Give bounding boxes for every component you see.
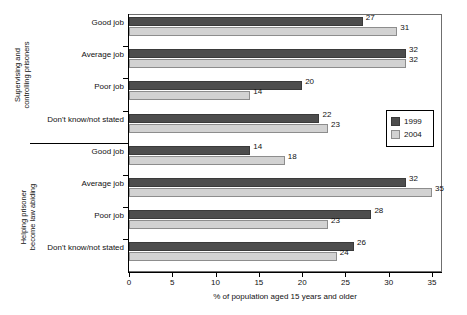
x-axis-tick-label: 0 [127, 278, 131, 287]
legend-swatch-1999-icon [391, 117, 400, 126]
category-label-wrap: Average job [4, 176, 124, 208]
category-label: Poor job [6, 82, 124, 91]
y-axis-tick [123, 207, 129, 208]
category-label: Poor job [6, 211, 124, 220]
category-label: Don't know/not stated [6, 243, 124, 252]
bar-value-label: 32 [409, 45, 418, 54]
legend-label-2004: 2004 [404, 130, 422, 139]
bar-value-label: 23 [331, 216, 340, 225]
legend-item-1999: 1999 [391, 115, 433, 128]
bar-1999 [129, 81, 302, 90]
bar-value-label: 24 [340, 248, 349, 257]
x-axis-line [128, 272, 442, 273]
bar-pair: 2823 [129, 208, 442, 240]
legend: 1999 2004 [386, 110, 434, 147]
y-axis-tick [123, 239, 129, 240]
category-label-wrap: Poor job [4, 79, 124, 111]
bar-row: Average job3235 [0, 176, 442, 208]
category-label: Average job [6, 179, 124, 188]
category-label-wrap: Poor job [4, 208, 124, 240]
bar-1999 [129, 49, 406, 58]
bar-2004 [129, 156, 285, 165]
bar-value-label: 35 [435, 184, 444, 193]
bar-value-label: 31 [400, 23, 409, 32]
bar-value-label: 26 [357, 238, 366, 247]
bar-value-label: 27 [366, 13, 375, 22]
y-axis-tick [123, 46, 129, 47]
bar-pair: 1418 [129, 144, 442, 176]
legend-swatch-2004-icon [391, 130, 400, 139]
x-axis-tick [172, 272, 173, 277]
category-label: Good job [6, 18, 124, 27]
category-label-wrap: Average job [4, 47, 124, 79]
x-axis-title: % of population aged 15 years and older [128, 292, 442, 301]
x-axis-tick [216, 272, 217, 277]
x-axis-tick-label: 15 [254, 278, 263, 287]
category-label-wrap: Don't know/not stated [4, 240, 124, 272]
bar-row: Don't know/not stated2624 [0, 240, 442, 272]
bar-pair: 3235 [129, 176, 442, 208]
bar-value-label: 28 [374, 206, 383, 215]
bar-value-label: 23 [331, 120, 340, 129]
x-axis-tick [389, 272, 390, 277]
bar-pair: 2624 [129, 240, 442, 272]
y-axis-tick [123, 78, 129, 79]
x-axis-tick-label: 5 [170, 278, 174, 287]
y-axis-tick [123, 111, 129, 112]
x-axis-tick [129, 272, 130, 277]
category-label-wrap: Good job [4, 15, 124, 47]
bar-value-label: 32 [409, 174, 418, 183]
bar-2004 [129, 252, 337, 261]
category-label: Good job [6, 147, 124, 156]
x-axis-tick-label: 30 [384, 278, 393, 287]
bar-row: Good job1418 [0, 144, 442, 176]
x-axis-tick-label: 20 [298, 278, 307, 287]
x-axis-tick-label: 25 [341, 278, 350, 287]
x-axis-tick [345, 272, 346, 277]
bar-2004 [129, 124, 328, 133]
x-axis-tick-label: 10 [211, 278, 220, 287]
bar-2004 [129, 59, 406, 68]
bar-1999 [129, 17, 363, 26]
bar-value-label: 14 [253, 142, 262, 151]
bar-value-label: 18 [288, 152, 297, 161]
bar-row: Poor job2014 [0, 79, 442, 111]
bar-pair: 3232 [129, 47, 442, 79]
bar-pair: 2731 [129, 15, 442, 47]
y-axis-tick [123, 175, 129, 176]
x-axis-tick [302, 272, 303, 277]
bar-2004 [129, 188, 432, 197]
bar-value-label: 20 [305, 77, 314, 86]
bar-2004 [129, 91, 250, 100]
legend-item-2004: 2004 [391, 128, 433, 141]
category-label-wrap: Don't know/not stated [4, 112, 124, 144]
bar-value-label: 32 [409, 55, 418, 64]
bar-1999 [129, 114, 319, 123]
category-label: Don't know/not stated [6, 115, 124, 124]
bar-row: Don't know/not stated2223 [0, 112, 442, 144]
x-axis-tick [259, 272, 260, 277]
bar-value-label: 14 [253, 87, 262, 96]
bar-1999 [129, 242, 354, 251]
bar-1999 [129, 178, 406, 187]
category-label: Average job [6, 50, 124, 59]
bar-chart: Supervising and controlling prisoners He… [0, 0, 467, 315]
bar-2004 [129, 27, 397, 36]
bar-value-label: 22 [322, 110, 331, 119]
x-axis-tick-label: 35 [428, 278, 437, 287]
bar-row: Good job2731 [0, 15, 442, 47]
legend-label-1999: 1999 [404, 117, 422, 126]
bar-row: Poor job2823 [0, 208, 442, 240]
bar-row: Average job3232 [0, 47, 442, 79]
bar-2004 [129, 220, 328, 229]
bar-1999 [129, 146, 250, 155]
x-axis-tick [432, 272, 433, 277]
category-label-wrap: Good job [4, 144, 124, 176]
bar-pair: 2014 [129, 79, 442, 111]
